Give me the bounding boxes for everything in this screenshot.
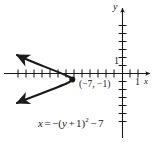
y-axis-unit-tick-label: 1 — [114, 56, 119, 66]
equation-constant: 7 — [98, 117, 104, 129]
x-axis — [4, 70, 150, 78]
parabola-curve — [17, 55, 72, 103]
equation-minus: − — [89, 117, 98, 129]
parabola-path — [17, 55, 72, 103]
equation-equals: = — [43, 117, 52, 129]
x-axis-unit-tick-label: 1 — [135, 77, 140, 87]
parabola-figure: y x 1 1 (−7, −1) x=−(y+1)2−7 — [0, 0, 157, 144]
equation-caption: x=−(y+1)2−7 — [38, 118, 104, 129]
y-axis-label: y — [113, 2, 117, 12]
vertex-point-marker — [69, 76, 75, 82]
vertex-coordinate-label: (−7, −1) — [79, 80, 110, 90]
equation-plus: + — [67, 117, 76, 129]
x-axis-label: x — [144, 77, 148, 86]
